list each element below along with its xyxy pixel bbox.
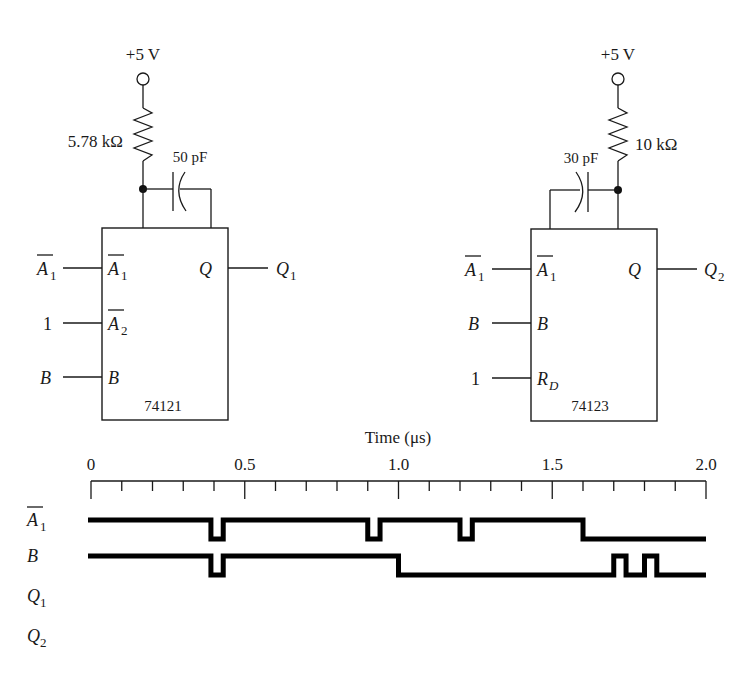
signal-labels: A1BQ1Q2 [26,507,47,650]
svg-text:1: 1 [121,268,128,283]
chip-part-number: 74121 [144,398,182,414]
tick-label: 1.5 [542,455,563,474]
time-axis-title: Time (μs) [365,428,432,447]
input-constant-one: 1 [471,369,480,389]
output-q2-label: Q 2 [704,260,725,284]
time-axis-tick-labels: 00.51.01.52.0 [87,455,717,474]
signal-waveforms [88,520,706,575]
tick-label: 0.5 [234,455,255,474]
input-b-external: B [468,314,479,334]
input-b-external: B [40,368,51,388]
svg-text:A: A [464,260,477,280]
tick-label: 0 [87,455,96,474]
supply-terminal-icon [137,73,149,85]
resistor-icon [134,108,152,161]
svg-text:A: A [107,314,120,334]
svg-text:D: D [548,378,559,393]
capacitor-curved-plate-icon [179,172,186,211]
monostable-circuits-figure: +5 V 5.78 kΩ 50 pF 74121 A 1 A 1 [0,0,753,675]
output-q1-label: Q 1 [276,259,297,283]
svg-text:A: A [107,259,120,279]
svg-text:1: 1 [478,269,485,284]
input-constant-one: 1 [43,314,52,334]
svg-text:B: B [27,546,38,566]
svg-text:1: 1 [290,268,297,283]
time-axis-ticks [91,481,706,499]
svg-text:R: R [536,369,548,389]
chip-part-number: 74123 [571,398,609,414]
capacitor-curved-plate-icon [575,172,583,212]
circuit-74121: +5 V 5.78 kΩ 50 pF 74121 A 1 A 1 [36,45,297,420]
capacitor-value: 30 pF [564,150,599,166]
pin-q: Q [199,259,212,279]
waveform-a1bar [88,520,706,539]
tick-label: 1.0 [388,455,409,474]
waveform-b [88,556,706,575]
svg-text:Q: Q [27,626,40,646]
pin-b: B [537,314,548,334]
svg-text:A: A [36,259,49,279]
svg-text:1: 1 [550,269,557,284]
svg-text:2: 2 [40,635,47,650]
resistor-icon [609,108,627,161]
supply-label: +5 V [601,45,636,64]
input-a1bar-external: A 1 [464,256,485,284]
signal-label-q2: Q2 [27,626,47,650]
capacitor-value: 50 pF [173,149,208,165]
figure-canvas: +5 V 5.78 kΩ 50 pF 74121 A 1 A 1 [0,0,753,675]
svg-text:A: A [26,510,39,530]
timing-diagram: Time (μs) 00.51.01.52.0 A1BQ1Q2 [26,428,717,650]
resistor-value: 10 kΩ [635,135,677,154]
circuit-74123: +5 V 10 kΩ 30 pF 74123 A 1 A 1 B [464,45,725,421]
input-a1bar-external: A 1 [36,255,57,283]
svg-text:2: 2 [121,323,128,338]
resistor-value: 5.78 kΩ [68,132,123,151]
svg-text:1: 1 [40,595,47,610]
svg-text:Q: Q [27,586,40,606]
signal-label-q1: Q1 [27,586,47,610]
supply-terminal-icon [612,73,624,85]
pin-b: B [108,368,119,388]
pin-q: Q [628,260,641,280]
svg-text:1: 1 [50,268,57,283]
signal-label-a1bar: A1 [26,507,47,534]
svg-text:Q: Q [704,260,717,280]
supply-label: +5 V [126,45,161,64]
svg-text:Q: Q [276,259,289,279]
svg-text:A: A [536,260,549,280]
svg-text:2: 2 [718,269,725,284]
svg-text:1: 1 [40,519,47,534]
signal-label-b: B [27,546,38,566]
tick-label: 2.0 [695,455,716,474]
